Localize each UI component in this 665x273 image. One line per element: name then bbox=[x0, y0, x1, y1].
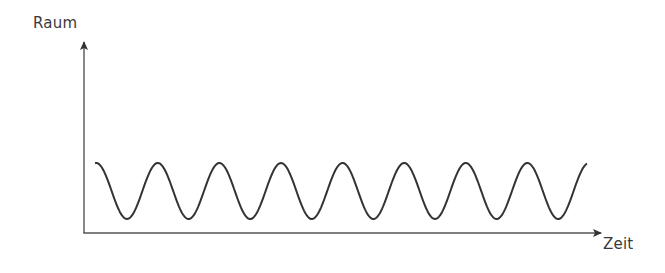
wave-curve bbox=[95, 163, 587, 219]
wave-diagram bbox=[0, 0, 665, 273]
